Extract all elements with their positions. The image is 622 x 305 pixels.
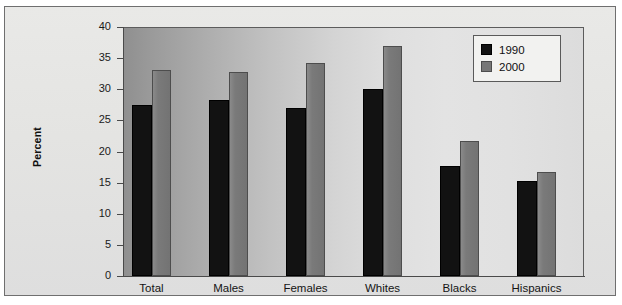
y-tick-label-text: 15: [83, 177, 111, 188]
black-square-icon: [481, 44, 492, 55]
y-tick-label-text: 0: [83, 270, 111, 281]
legend-item-1990: 1990: [481, 41, 553, 58]
y-tick-40: [117, 27, 123, 28]
x-axis-label-whites: Whites: [341, 281, 425, 295]
bar-females-2000: [306, 63, 326, 276]
y-tick-label-text: 25: [83, 114, 111, 125]
bar-total-1990: [132, 105, 152, 276]
y-tick-label-text: 20: [83, 146, 111, 157]
y-tick-label-text: 35: [83, 52, 111, 63]
x-axis-label-males: Males: [187, 281, 271, 295]
y-tick-0: [117, 276, 123, 277]
y-tick-30: [117, 89, 123, 90]
x-axis-label-hispanics: Hispanics: [495, 281, 579, 295]
y-tick-label-text: 10: [83, 208, 111, 219]
x-axis-label-total: Total: [110, 281, 194, 295]
legend-item-2000: 2000: [481, 58, 553, 75]
bar-males-1990: [209, 100, 229, 276]
x-axis-label-blacks: Blacks: [418, 281, 502, 295]
y-tick-15: [117, 183, 123, 184]
y-tick-label-text: 40: [83, 21, 111, 32]
y-tick-label-0: 0: [83, 270, 111, 281]
y-tick-label-40: 40: [83, 21, 111, 32]
y-tick-label-25: 25: [83, 114, 111, 125]
y-tick-label-15: 15: [83, 177, 111, 188]
bar-males-2000: [229, 72, 249, 276]
bar-hispanics-2000: [537, 172, 557, 276]
bar-total-2000: [152, 70, 172, 276]
y-tick-label-5: 5: [83, 239, 111, 250]
y-axis-line: [123, 27, 124, 277]
bar-blacks-1990: [440, 166, 460, 276]
y-tick-label-10: 10: [83, 208, 111, 219]
y-tick-label-35: 35: [83, 52, 111, 63]
y-tick-5: [117, 245, 123, 246]
bar-blacks-2000: [460, 141, 480, 276]
y-tick-label-20: 20: [83, 146, 111, 157]
figure-root: Percent 0510152025303540 TotalMalesFemal…: [0, 0, 622, 305]
y-tick-label-text: 5: [83, 239, 111, 250]
legend-label-2000: 2000: [499, 61, 525, 73]
bar-hispanics-1990: [517, 181, 537, 276]
x-axis-line: [123, 276, 585, 277]
bar-whites-1990: [363, 89, 383, 276]
y-tick-label-30: 30: [83, 83, 111, 94]
bar-whites-2000: [383, 46, 403, 276]
y-tick-20: [117, 152, 123, 153]
bar-females-1990: [286, 108, 306, 276]
y-tick-25: [117, 120, 123, 121]
chart-panel: Percent 0510152025303540 TotalMalesFemal…: [4, 6, 616, 296]
legend-label-1990: 1990: [499, 44, 525, 56]
y-tick-10: [117, 214, 123, 215]
chart-legend: 1990 2000: [473, 35, 561, 82]
y-axis-title: Percent: [31, 107, 43, 187]
x-axis-label-females: Females: [264, 281, 348, 295]
gray-square-icon: [481, 61, 492, 72]
y-tick-35: [117, 58, 123, 59]
y-tick-label-text: 30: [83, 83, 111, 94]
